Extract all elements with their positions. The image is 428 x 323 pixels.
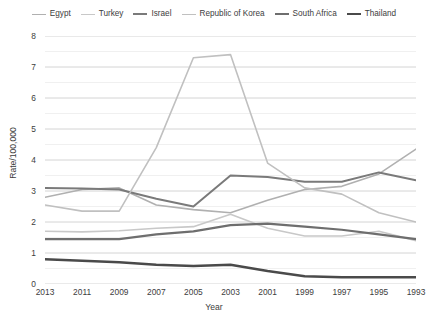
x-tick-label: 2005 (173, 288, 213, 296)
x-tick-label: 2001 (248, 288, 288, 296)
x-axis-ticks: 2013201120092007200520032001199919971995… (0, 0, 428, 323)
x-axis-title: Year (0, 302, 428, 312)
x-tick-label: 1997 (322, 288, 362, 296)
x-tick-label: 1993 (396, 288, 428, 296)
x-tick-label: 2003 (211, 288, 251, 296)
line-chart: EgyptTurkeyIsraelRepublic of KoreaSouth … (0, 0, 428, 323)
x-tick-label: 2013 (25, 288, 65, 296)
x-tick-label: 2009 (99, 288, 139, 296)
x-tick-label: 1995 (359, 288, 399, 296)
x-tick-label: 1999 (285, 288, 325, 296)
x-tick-label: 2007 (136, 288, 176, 296)
x-tick-label: 2011 (62, 288, 102, 296)
